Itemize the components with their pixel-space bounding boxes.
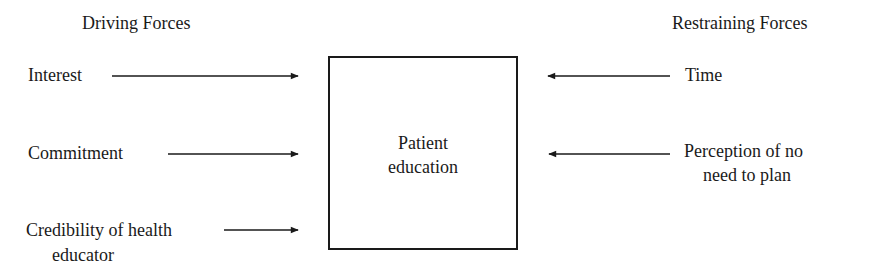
arrows-layer — [0, 0, 875, 276]
